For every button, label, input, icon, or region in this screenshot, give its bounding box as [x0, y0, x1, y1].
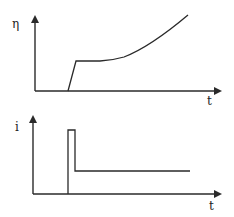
top-y-label: η [12, 17, 19, 31]
bottom-x-label: t [209, 199, 214, 213]
diagram-canvas: η t i t [0, 0, 234, 217]
bottom-plot: i t [15, 117, 220, 213]
overpotential-curve [68, 15, 188, 91]
current-pulse [68, 130, 190, 194]
top-plot: η t [12, 15, 220, 108]
top-x-label: t [207, 94, 212, 108]
bottom-y-label: i [15, 120, 19, 134]
